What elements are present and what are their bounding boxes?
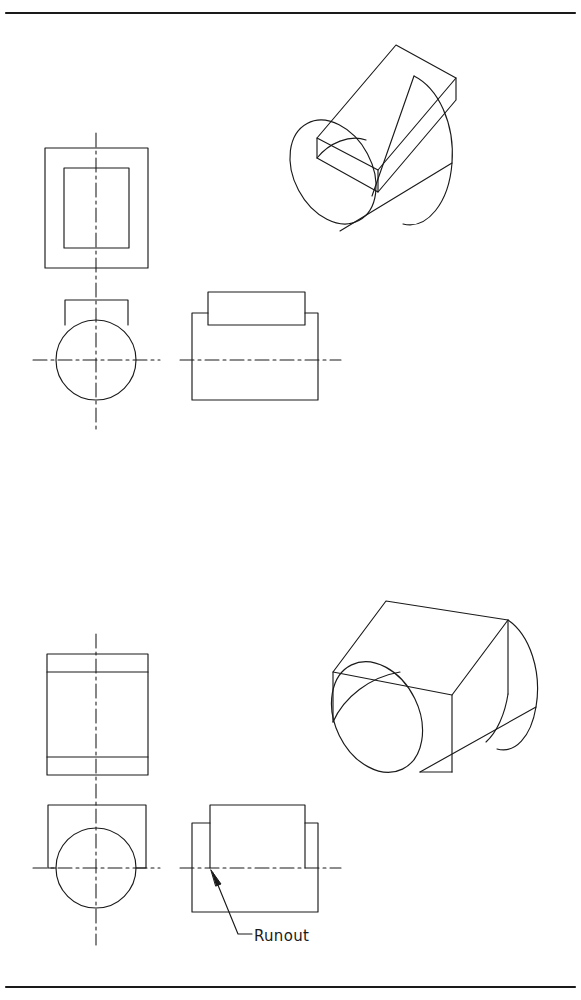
side-view-figure1 [192, 292, 318, 400]
runout-leader-group [211, 870, 252, 934]
runout-label: Runout [254, 927, 309, 945]
pictorial-cyl-near-end-face-2 [314, 646, 440, 787]
side-view-boss-rect [208, 292, 305, 325]
pictorial-runout-curve-right [486, 694, 508, 742]
pictorial-boss-right-face [378, 78, 456, 192]
side-view-body-outline [192, 313, 318, 400]
side-view-boss-outline-2 [210, 805, 305, 868]
pictorial-runout-curve [333, 672, 400, 722]
front-view-square-outline [48, 805, 146, 868]
pictorial-boss-top-face [317, 45, 456, 170]
pictorial-figure1 [273, 45, 456, 239]
pictorial-cyl-bottom-silhouette [340, 163, 452, 231]
side-view-figure2 [192, 805, 318, 912]
front-view-figure2 [48, 805, 146, 908]
top-view-figure2 [47, 654, 148, 775]
technical-drawing-canvas: Runout [0, 0, 581, 1000]
pictorial-block-top-face [333, 601, 508, 695]
pictorial-figure2 [314, 601, 538, 788]
pictorial-cyl-far-end-2 [497, 620, 538, 750]
runout-leader-arrowhead [211, 870, 221, 886]
pictorial-cyl-bottom-silhouette-2 [420, 707, 536, 772]
centerline-group-top [33, 133, 341, 433]
centerline-group-bottom [33, 634, 341, 945]
pictorial-block-left-face [333, 672, 452, 772]
drawing-sheet: Runout [0, 0, 581, 1000]
pictorial-cyl-near-end-face [273, 105, 394, 239]
pictorial-cyl-far-end [403, 76, 452, 225]
